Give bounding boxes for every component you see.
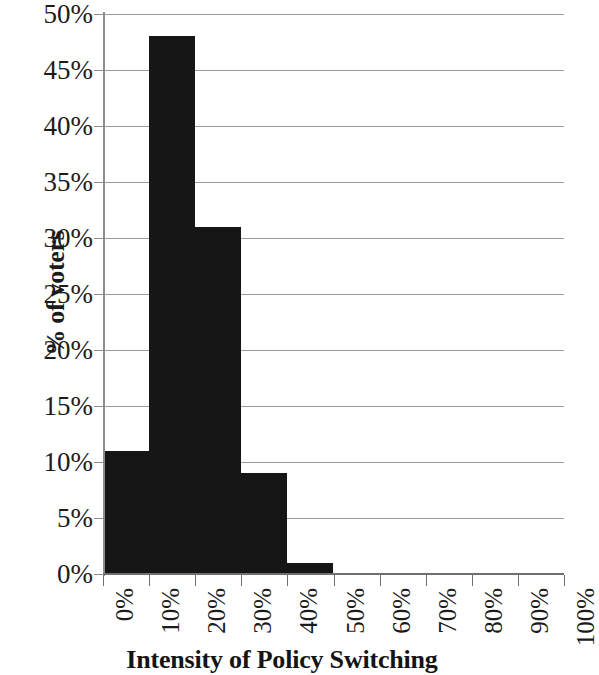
x-axis-tick xyxy=(149,575,150,586)
y-axis-tick-label: 30% xyxy=(44,225,94,252)
y-axis-tick-label: 25% xyxy=(44,281,94,308)
x-axis-tick xyxy=(380,575,381,586)
x-axis-tick xyxy=(195,575,196,586)
bar xyxy=(149,36,195,574)
y-axis-tick xyxy=(94,182,104,183)
bar xyxy=(195,227,241,574)
y-axis-tick xyxy=(94,294,104,295)
x-axis-tick xyxy=(287,575,288,586)
y-axis-tick-label: 50% xyxy=(44,1,94,28)
y-axis-tick xyxy=(94,406,104,407)
y-axis-tick xyxy=(94,238,104,239)
x-axis-tick-label: 100% xyxy=(573,588,598,658)
y-axis-tick-label: 35% xyxy=(44,169,94,196)
y-axis-tick xyxy=(94,14,104,15)
y-axis-tick-label: 15% xyxy=(44,393,94,420)
y-axis-tick xyxy=(94,70,104,71)
x-axis-tick-labels: 0%10%20%30%40%50%60%70%80%90%100% xyxy=(0,588,564,646)
x-axis-title: Intensity of Policy Switching xyxy=(0,645,564,675)
y-axis-tick-label: 5% xyxy=(57,505,93,532)
x-axis-tick xyxy=(334,575,335,586)
y-axis-tick-label: 40% xyxy=(44,113,94,140)
x-axis-tick xyxy=(241,575,242,586)
y-axis-tick xyxy=(94,350,104,351)
y-axis-tick-label: 10% xyxy=(44,449,94,476)
y-axis-tick xyxy=(94,462,104,463)
bar xyxy=(241,473,287,574)
x-axis-tick xyxy=(518,575,519,586)
y-axis-tick-label: 0% xyxy=(57,561,93,588)
y-axis-tick-label: 20% xyxy=(44,337,94,364)
y-axis-tick xyxy=(94,126,104,127)
y-axis-tick-labels: 0%5%10%15%20%25%30%35%40%45%50% xyxy=(0,0,98,600)
x-axis-tick xyxy=(103,575,104,586)
x-axis-tick xyxy=(472,575,473,586)
gridline xyxy=(103,14,564,15)
x-axis-tick xyxy=(564,575,565,586)
plot-area xyxy=(103,14,564,574)
y-axis-tick xyxy=(94,518,104,519)
x-axis-tick xyxy=(426,575,427,586)
bar xyxy=(103,451,149,574)
y-axis-tick-label: 45% xyxy=(44,57,94,84)
